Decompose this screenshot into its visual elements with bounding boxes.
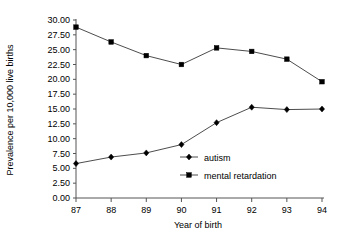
data-point-marker bbox=[214, 120, 219, 126]
series-autism bbox=[73, 104, 324, 166]
series-layer bbox=[73, 25, 324, 167]
y-tick-label: 10.00 bbox=[47, 134, 70, 144]
y-tick-label: 27.50 bbox=[47, 30, 70, 40]
chart-legend: autismmental retardation bbox=[180, 153, 277, 181]
data-point-marker bbox=[214, 46, 219, 51]
data-point-marker bbox=[179, 62, 184, 67]
series-polyline bbox=[76, 107, 322, 163]
x-tick-label: 92 bbox=[247, 205, 257, 215]
x-tick-label: 91 bbox=[212, 205, 222, 215]
data-point-marker bbox=[144, 150, 149, 156]
data-point-marker bbox=[74, 25, 79, 30]
chart-container: 0.002.505.007.5010.0012.5015.0017.5020.0… bbox=[0, 0, 341, 242]
y-tick-label: 30.00 bbox=[47, 15, 70, 25]
y-axis-label: Prevalence per 10,000 live births bbox=[5, 44, 15, 176]
data-point-marker bbox=[285, 57, 290, 62]
y-tick-label: 17.50 bbox=[47, 89, 70, 99]
x-axis-ticks: 8788899091929394 bbox=[71, 198, 327, 215]
y-tick-label: 25.00 bbox=[47, 45, 70, 55]
x-tick-label: 89 bbox=[141, 205, 151, 215]
data-point-marker bbox=[319, 106, 324, 112]
x-axis-label: Year of birth bbox=[174, 220, 222, 230]
x-tick-label: 93 bbox=[282, 205, 292, 215]
y-tick-label: 0.00 bbox=[52, 193, 70, 203]
data-point-marker bbox=[320, 79, 325, 84]
x-tick-label: 88 bbox=[106, 205, 116, 215]
x-tick-label: 87 bbox=[71, 205, 81, 215]
data-point-marker bbox=[187, 173, 192, 178]
data-point-marker bbox=[186, 154, 191, 160]
line-chart: 0.002.505.007.5010.0012.5015.0017.5020.0… bbox=[0, 0, 341, 242]
legend-label: mental retardation bbox=[204, 171, 277, 181]
y-tick-label: 20.00 bbox=[47, 74, 70, 84]
legend-item-autism[interactable]: autism bbox=[180, 153, 231, 163]
legend-label: autism bbox=[204, 153, 231, 163]
y-tick-label: 5.00 bbox=[52, 163, 70, 173]
y-tick-label: 7.50 bbox=[52, 149, 70, 159]
y-tick-label: 2.50 bbox=[52, 178, 70, 188]
data-point-marker bbox=[249, 49, 254, 54]
y-tick-label: 22.50 bbox=[47, 60, 70, 70]
series-mental-retardation bbox=[74, 25, 325, 84]
data-point-marker bbox=[109, 40, 114, 45]
y-tick-label: 12.50 bbox=[47, 119, 70, 129]
y-tick-label: 15.00 bbox=[47, 104, 70, 114]
data-point-marker bbox=[73, 161, 78, 167]
data-point-marker bbox=[284, 107, 289, 113]
data-point-marker bbox=[109, 154, 114, 160]
x-tick-label: 90 bbox=[176, 205, 186, 215]
data-point-marker bbox=[144, 53, 149, 58]
x-tick-label: 94 bbox=[317, 205, 327, 215]
data-point-marker bbox=[249, 104, 254, 110]
legend-item-mental-retardation[interactable]: mental retardation bbox=[180, 171, 277, 181]
y-axis-ticks: 0.002.505.007.5010.0012.5015.0017.5020.0… bbox=[47, 15, 76, 203]
series-polyline bbox=[76, 27, 322, 82]
data-point-marker bbox=[179, 142, 184, 148]
